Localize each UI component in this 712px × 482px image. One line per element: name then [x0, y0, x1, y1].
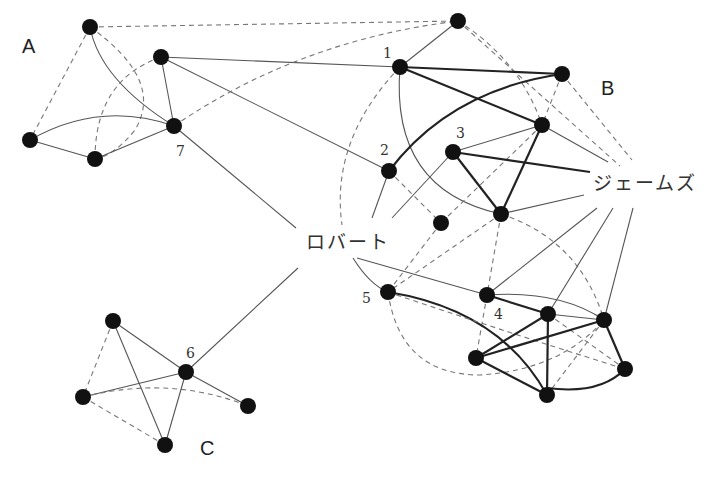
node-label-2: 2: [380, 142, 389, 158]
node-label-1: 1: [383, 45, 392, 61]
node-label-3: 3: [456, 125, 465, 141]
cluster-label-c: C: [200, 437, 214, 459]
node-label-4: 4: [494, 306, 503, 322]
node-b-6: [540, 306, 556, 322]
node-b-5: [493, 206, 509, 222]
cluster-label-b: B: [601, 77, 614, 99]
node-5: [380, 284, 396, 300]
network-diagram: A B C ロバート ジェームズ 1 2 3 4 5 6 7: [0, 0, 712, 482]
node-label-7: 7: [176, 143, 185, 159]
node-c-top: [105, 313, 121, 329]
node-a-left: [22, 132, 38, 148]
node-b-9: [617, 361, 633, 377]
node-2: [381, 163, 397, 179]
node-label-5: 5: [362, 290, 371, 306]
node-b-8: [468, 350, 484, 366]
node-4: [479, 287, 495, 303]
node-b-3: [534, 117, 550, 133]
cluster-label-a: A: [22, 35, 36, 57]
person-label-robert: ロバート: [306, 231, 390, 253]
node-a-mid: [153, 49, 169, 65]
node-b-7: [596, 312, 612, 328]
node-c-right: [240, 398, 256, 414]
node-1: [392, 59, 408, 75]
node-b-4: [433, 215, 449, 231]
node-a-top: [82, 19, 98, 35]
node-3: [445, 144, 461, 160]
cluster-b-edges: [340, 21, 633, 395]
node-b-10: [539, 387, 555, 403]
node-7: [166, 118, 182, 134]
cluster-a-edges: [30, 21, 458, 228]
node-b-top: [450, 13, 466, 29]
node-c-left: [75, 389, 91, 405]
labels: A B C ロバート ジェームズ 1 2 3 4 5 6 7: [22, 35, 697, 459]
node-a-bottom: [87, 151, 103, 167]
node-b-right: [554, 66, 570, 82]
person-label-james: ジェームズ: [593, 172, 697, 194]
node-c-bottom: [157, 437, 173, 453]
node-label-6: 6: [186, 345, 195, 361]
node-6: [178, 364, 194, 380]
